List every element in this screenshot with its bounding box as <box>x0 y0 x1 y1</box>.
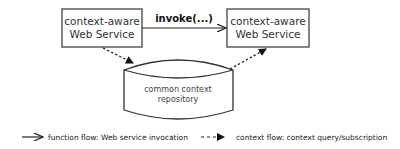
legend-context-flow: context flow: context query/subscription <box>201 133 387 142</box>
left-service-label-line2: Web Service <box>69 28 134 40</box>
repository-label-line1: common context <box>144 85 212 94</box>
left-service-label-line1: context-aware <box>64 15 139 27</box>
invoke-label: invoke(...) <box>155 13 213 24</box>
left-service-node: context-aware Web Service <box>62 9 142 47</box>
invoke-edge: invoke(...) <box>142 13 226 28</box>
diagram-canvas: context-aware Web Service context-aware … <box>0 0 400 149</box>
legend-function-flow-label: function flow: Web service invocation <box>48 133 188 142</box>
repository-to-right-edge <box>230 49 266 69</box>
left-to-repository-edge <box>103 48 133 63</box>
repository-node: common context repository <box>124 60 233 119</box>
legend-context-flow-label: context flow: context query/subscription <box>236 133 387 142</box>
right-service-label-line1: context-aware <box>230 15 305 27</box>
legend-function-flow: function flow: Web service invocation <box>22 133 188 142</box>
repository-label-line2: repository <box>158 95 199 104</box>
right-service-label-line2: Web Service <box>235 28 300 40</box>
right-service-node: context-aware Web Service <box>227 9 309 47</box>
